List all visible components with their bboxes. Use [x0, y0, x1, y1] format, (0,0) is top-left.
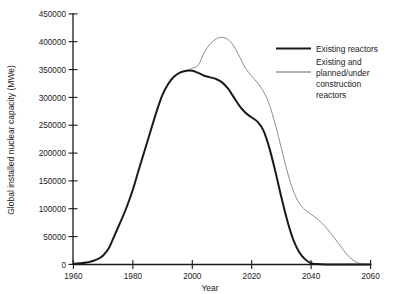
y-tick-label: 300000	[39, 94, 67, 103]
legend-label-planned-line3: construction	[316, 79, 361, 89]
x-axis-title: Year	[201, 283, 218, 293]
y-axis-tick-labels: 450000 400000 350000 300000 250000 20000…	[39, 10, 67, 270]
y-tick-label: 50000	[43, 233, 66, 242]
chart-figure: 450000 400000 350000 300000 250000 20000…	[0, 0, 397, 294]
chart-canvas: 450000 400000 350000 300000 250000 20000…	[0, 0, 397, 294]
y-axis-title: Global installed nuclear capacity (MWe)	[6, 65, 16, 215]
x-tick-label: 2060	[361, 272, 380, 281]
legend-label-planned-line4: reactors	[316, 90, 346, 100]
legend-label-existing: Existing reactors	[316, 44, 378, 54]
y-tick-label: 250000	[39, 121, 67, 130]
x-tick-label: 1980	[124, 272, 143, 281]
y-tick-label: 150000	[39, 177, 67, 186]
x-tick-label: 2000	[183, 272, 202, 281]
y-tick-label: 200000	[39, 149, 67, 158]
x-tick-label: 2040	[302, 272, 321, 281]
y-tick-label: 450000	[39, 10, 67, 19]
y-tick-label: 100000	[39, 205, 67, 214]
x-axis-tick-labels: 1960 1980 2000 2020 2040 2060	[64, 272, 380, 281]
legend-label-planned-line1: Existing and	[316, 57, 362, 67]
chart-legend: Existing reactors Existing and planned/u…	[276, 44, 378, 101]
y-tick-label: 350000	[39, 66, 67, 75]
y-tick-label: 400000	[39, 38, 67, 47]
x-tick-label: 1960	[64, 272, 83, 281]
legend-label-planned-line2: planned/under	[316, 68, 370, 78]
y-tick-label: 0	[61, 261, 66, 270]
x-tick-label: 2020	[243, 272, 262, 281]
